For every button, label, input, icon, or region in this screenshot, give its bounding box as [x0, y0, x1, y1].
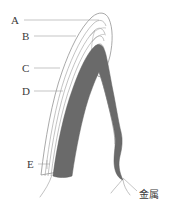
callout-label-b: B	[22, 31, 30, 42]
annotation-label-metal: 金属	[139, 190, 159, 200]
right-tip-tail-b	[111, 180, 122, 193]
callout-label-c: C	[22, 63, 30, 74]
left-tip-tail	[40, 175, 52, 197]
callout-label-a: A	[11, 15, 19, 26]
right-tip-tail-a	[123, 180, 130, 195]
leader-line-metal	[123, 178, 137, 191]
callout-label-d: D	[22, 86, 30, 97]
callout-label-e: E	[27, 159, 34, 170]
figure-root: A B C D E 金属	[0, 0, 175, 213]
